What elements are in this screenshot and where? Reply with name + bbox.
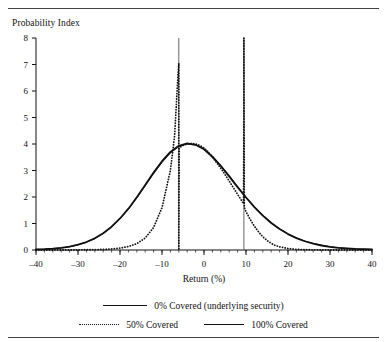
legend-row-2: 50% Covered 100% Covered: [0, 315, 387, 334]
x-tick-label: –40: [28, 259, 43, 269]
density-chart: 012345678–40–30–20–10010203040Return (%): [0, 0, 387, 300]
legend-0pct: 0% Covered (underlying security): [103, 301, 284, 311]
legend-swatch-solid-thin-icon: [204, 324, 244, 325]
x-tick-label: 10: [242, 259, 252, 269]
legend-swatch-dotted-icon: [79, 324, 119, 325]
y-tick-label: 8: [24, 33, 29, 43]
legend-row-1: 0% Covered (underlying security): [0, 296, 387, 315]
chart-legend: 0% Covered (underlying security) 50% Cov…: [0, 296, 387, 334]
legend-swatch-solid-thick-icon: [103, 305, 147, 306]
figure-container: Probability Index 012345678–40–30–20–100…: [0, 0, 387, 342]
y-tick-label: 7: [24, 60, 29, 70]
y-tick-label: 3: [24, 166, 29, 176]
x-tick-label: –10: [154, 259, 169, 269]
y-tick-label: 1: [24, 219, 29, 229]
y-tick-label: 2: [24, 192, 29, 202]
legend-50pct: 50% Covered: [79, 320, 178, 330]
y-tick-label: 6: [24, 86, 29, 96]
x-tick-label: 40: [368, 259, 378, 269]
series-line-0: [36, 143, 372, 249]
legend-100pct: 100% Covered: [204, 320, 308, 330]
x-tick-label: 20: [284, 259, 294, 269]
x-tick-label: –20: [112, 259, 127, 269]
legend-label-0pct: 0% Covered (underlying security): [154, 301, 284, 311]
series-line-1: [36, 38, 372, 250]
y-tick-label: 0: [24, 245, 29, 255]
plot-area: 012345678–40–30–20–10010203040Return (%): [0, 0, 387, 300]
x-axis-title: Return (%): [183, 274, 225, 285]
y-tick-label: 4: [24, 139, 29, 149]
legend-label-100pct: 100% Covered: [251, 320, 308, 330]
x-tick-label: 0: [202, 259, 207, 269]
y-tick-label: 5: [24, 113, 29, 123]
x-tick-label: –30: [70, 259, 85, 269]
series-line-2: [36, 144, 372, 249]
x-tick-label: 30: [326, 259, 336, 269]
legend-label-50pct: 50% Covered: [126, 320, 178, 330]
bottom-rule: [8, 337, 379, 338]
